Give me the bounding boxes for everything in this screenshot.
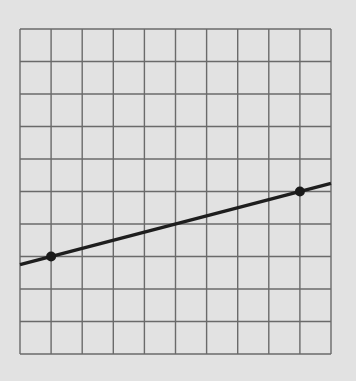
data-point	[295, 187, 305, 197]
grid-lines	[20, 29, 331, 354]
data-point	[46, 252, 56, 262]
graph-paper-chart	[0, 0, 356, 381]
